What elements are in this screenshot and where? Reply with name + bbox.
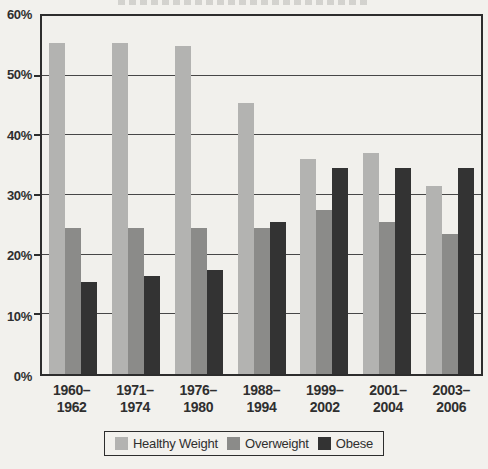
bar-group-1988 <box>230 16 293 374</box>
bar-healthy-weight <box>112 43 128 374</box>
x-axis-label: 1960–1962 <box>40 382 103 415</box>
bar-overweight <box>379 222 395 374</box>
legend-swatch <box>115 437 128 450</box>
legend-swatch <box>318 437 331 450</box>
y-axis-label: 40% <box>7 128 32 143</box>
y-axis-tick <box>34 75 42 77</box>
x-axis-label: 1999–2002 <box>293 382 356 415</box>
bar-healthy-weight <box>300 159 316 374</box>
y-axis-label: 20% <box>7 248 32 263</box>
x-axis-label: 2003–2006 <box>420 382 483 415</box>
bar-obese <box>207 270 223 374</box>
legend-item-healthy-weight: Healthy Weight <box>115 436 218 451</box>
bar-overweight <box>442 234 458 374</box>
legend-label: Overweight <box>245 436 309 451</box>
bar-group-1971 <box>105 16 168 374</box>
legend-item-overweight: Overweight <box>227 436 309 451</box>
y-axis-label: 10% <box>7 309 32 324</box>
y-axis-label: 60% <box>7 7 32 22</box>
y-axis-label: 50% <box>7 67 32 82</box>
x-axis-label: 1988–1994 <box>230 382 293 415</box>
bar-groups <box>42 16 481 374</box>
bar-overweight <box>128 228 144 374</box>
y-axis-label: 0% <box>14 369 32 384</box>
bar-obese <box>144 276 160 374</box>
bar-group-1976 <box>167 16 230 374</box>
y-axis-tick <box>34 194 42 196</box>
bar-overweight <box>316 210 332 374</box>
bar-obese <box>458 168 474 374</box>
cropped-title-fragment <box>118 0 370 5</box>
legend-label: Obese <box>336 436 373 451</box>
bar-group-1999 <box>293 16 356 374</box>
bar-healthy-weight <box>363 153 379 374</box>
bar-overweight <box>65 228 81 374</box>
bar-overweight <box>191 228 207 374</box>
legend-item-obese: Obese <box>318 436 373 451</box>
x-axis-label: 1971–1974 <box>103 382 166 415</box>
legend-label: Healthy Weight <box>133 436 218 451</box>
y-axis-label: 30% <box>7 188 32 203</box>
bar-healthy-weight <box>426 186 442 374</box>
bar-healthy-weight <box>238 103 254 374</box>
bar-healthy-weight <box>49 43 65 374</box>
plot-area <box>40 14 483 376</box>
bar-overweight <box>254 228 270 374</box>
bar-obese <box>332 168 348 374</box>
legend: Healthy WeightOverweightObese <box>0 431 488 456</box>
legend-box: Healthy WeightOverweightObese <box>104 431 384 456</box>
y-axis-tick <box>34 313 42 315</box>
bar-group-2001 <box>356 16 419 374</box>
y-axis-tick <box>34 254 42 256</box>
bar-group-2003 <box>418 16 481 374</box>
y-axis-tick <box>34 134 42 136</box>
y-axis: 60%50%40%30%20%10%0% <box>0 14 34 376</box>
bar-obese <box>81 282 97 374</box>
bar-obese <box>395 168 411 374</box>
bar-obese <box>270 222 286 374</box>
legend-swatch <box>227 437 240 450</box>
x-axis: 1960–19621971–19741976–19801988–19941999… <box>40 382 483 415</box>
bar-healthy-weight <box>175 46 191 374</box>
x-axis-label: 1976–1980 <box>167 382 230 415</box>
bar-group-1960 <box>42 16 105 374</box>
x-axis-label: 2001–2004 <box>356 382 419 415</box>
